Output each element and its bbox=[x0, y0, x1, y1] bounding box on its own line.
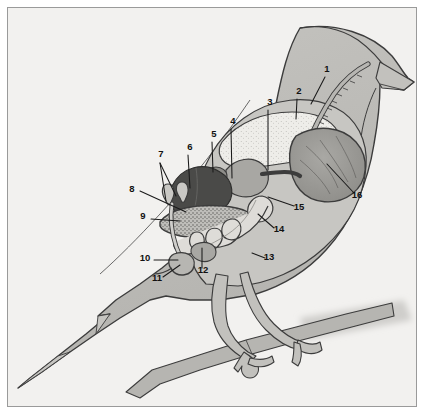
callout-label-11: 11 bbox=[152, 272, 163, 283]
callout-label-5: 5 bbox=[211, 128, 217, 139]
callout-label-2: 2 bbox=[296, 85, 301, 96]
callout-label-13: 13 bbox=[264, 251, 275, 262]
callout-label-1: 1 bbox=[324, 63, 330, 74]
callout-label-12: 12 bbox=[198, 264, 209, 275]
callout-label-10: 10 bbox=[140, 252, 151, 263]
callout-label-3: 3 bbox=[267, 96, 272, 107]
callout-label-4: 4 bbox=[230, 115, 236, 126]
callout-label-8: 8 bbox=[129, 183, 134, 194]
callout-label-7: 7 bbox=[158, 148, 163, 159]
organ-cloaca bbox=[169, 253, 194, 275]
bird-anatomy-diagram: 1 2 3 4 5 6 7 8 9 10 11 12 13 14 15 16 bbox=[0, 0, 426, 416]
callout-label-15: 15 bbox=[294, 201, 305, 212]
figure-root: 1 2 3 4 5 6 7 8 9 10 11 12 13 14 15 16 bbox=[0, 0, 426, 416]
callout-label-16: 16 bbox=[352, 189, 363, 200]
callout-label-14: 14 bbox=[274, 223, 285, 234]
callout-label-6: 6 bbox=[187, 141, 192, 152]
callout-label-9: 9 bbox=[140, 210, 145, 221]
